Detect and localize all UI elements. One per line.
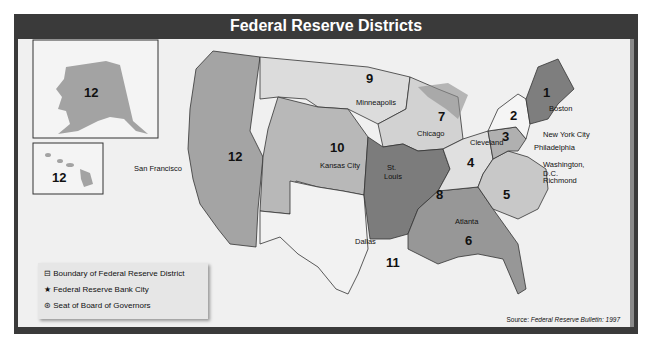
source-note: Source: Federal Reserve Bulletin: 1997 [507,316,620,323]
district-1-label: 1 [543,85,550,100]
map-legend: ⊟ Boundary of Federal Reserve District ★… [38,263,208,319]
city-st-louis-2: Louis [384,172,402,181]
legend-boundary: ⊟ Boundary of Federal Reserve District [44,269,184,278]
district-11-label: 11 [386,255,400,270]
city-chicago: Chicago [417,129,445,138]
map-area: 12 12 [18,39,634,327]
city-boston: Boston [549,104,572,113]
legend-bank-city: ★ Federal Reserve Bank City [44,285,149,294]
city-kansas-city: Kansas City [320,161,360,170]
district-4-label: 4 [467,155,475,170]
district-9-label: 9 [366,71,373,86]
city-washington-1: Washington, [543,160,584,169]
city-cleveland: Cleveland [470,138,503,147]
city-washington-2: D.C. [543,169,558,178]
city-new-york: New York City [543,130,590,139]
district-7-label: 7 [438,109,445,124]
hawaii-inset [33,143,103,194]
legend-board-seat: ⊛ Seat of Board of Governors [44,301,151,310]
city-dallas: Dallas [355,237,376,246]
district-10-label: 10 [330,140,344,155]
district-5-label: 5 [503,187,510,202]
district-8-label: 8 [436,187,443,202]
city-philadelphia: Philadelphia [534,143,576,152]
district-6-label: 6 [465,233,472,248]
district-2-label: 2 [510,108,517,123]
district-12-label: 12 [228,149,242,164]
map-frame: Federal Reserve Districts 12 12 [14,14,638,334]
hawaii-district-label: 12 [52,170,66,185]
city-san-francisco: San Francisco [134,164,182,173]
map-title: Federal Reserve Districts [14,14,638,38]
city-minneapolis: Minneapolis [356,98,396,107]
city-st-louis-1: St. [387,163,396,172]
city-atlanta: Atlanta [455,217,479,226]
district-12[interactable] [188,51,263,247]
alaska-district-label: 12 [84,85,98,100]
